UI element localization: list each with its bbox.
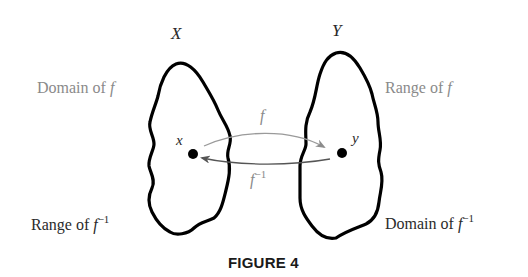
point-x-label: x — [176, 133, 183, 148]
label-domain-of-f-text: Domain of — [37, 79, 110, 96]
label-range-of-f: Range of f — [385, 80, 452, 96]
set-y-outline — [300, 52, 382, 238]
set-x-outline — [149, 63, 231, 234]
label-domain-of-f: Domain of f — [37, 80, 114, 96]
label-domain-of-f-inverse: Domain of f−1 — [385, 216, 474, 232]
set-x-label: X — [171, 25, 181, 42]
arrow-f-label: f — [260, 108, 264, 124]
set-y-label: Y — [332, 22, 341, 39]
label-range-of-f-inverse-text: Range of — [31, 216, 93, 233]
label-range-of-f-inverse-sup: −1 — [98, 213, 110, 225]
label-range-of-f-fn: f — [447, 79, 451, 96]
diagram-canvas — [0, 0, 528, 277]
arrow-f-inverse-label: f−1 — [250, 172, 266, 188]
arrow-f-inverse — [202, 158, 330, 164]
inverse-function-diagram: X Y x y f f−1 Domain of f Range of f Ran… — [0, 0, 528, 277]
label-range-of-f-inverse: Range of f−1 — [31, 217, 109, 233]
point-y-dot — [337, 148, 347, 158]
point-x-dot — [188, 149, 198, 159]
arrow-f-inverse-sup: −1 — [254, 168, 266, 180]
figure-caption: FIGURE 4 — [228, 254, 299, 271]
point-y-label: y — [352, 131, 359, 146]
label-domain-of-f-inverse-sup: −1 — [462, 212, 474, 224]
label-domain-of-f-inverse-text: Domain of — [385, 215, 458, 232]
label-range-of-f-text: Range of — [385, 79, 447, 96]
label-domain-of-f-fn: f — [110, 79, 114, 96]
label-range-of-f-inverse-fn: f — [93, 216, 97, 233]
